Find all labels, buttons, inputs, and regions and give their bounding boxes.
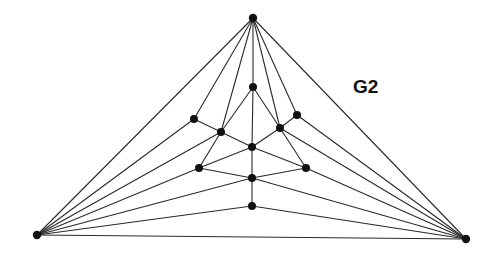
graph-node (249, 14, 257, 22)
graph-edge (37, 206, 252, 235)
graph-edge (306, 168, 466, 239)
graph-node (248, 202, 256, 210)
graph-node (190, 115, 198, 123)
graph-edge (221, 87, 253, 132)
graph-node (302, 164, 310, 172)
graph-edge (221, 18, 253, 132)
graph-edge (253, 87, 280, 128)
graph-edge (252, 128, 280, 147)
graph-edge (199, 147, 252, 168)
graph-edge (37, 178, 252, 235)
graph-node (462, 235, 470, 243)
graph-edge (199, 168, 252, 178)
graph-edge (280, 128, 306, 168)
graph-node (217, 128, 225, 136)
graph-node (249, 83, 257, 91)
graph-edge (37, 18, 253, 235)
graph-edge (297, 115, 466, 239)
graph-edge (252, 168, 306, 178)
graph-diagram (0, 0, 504, 255)
graph-edge (252, 87, 253, 147)
graph-node (293, 111, 301, 119)
graph-edge (37, 168, 199, 235)
graph-nodes (33, 14, 470, 243)
graph-label: G2 (353, 76, 378, 98)
graph-edge (280, 128, 466, 239)
graph-edge (253, 18, 466, 239)
graph-edge (199, 132, 221, 168)
graph-edge (37, 132, 221, 235)
graph-edge (252, 178, 466, 239)
graph-node (248, 174, 256, 182)
graph-node (276, 124, 284, 132)
graph-node (248, 143, 256, 151)
graph-edge (253, 18, 280, 128)
graph-node (33, 231, 41, 239)
graph-edge (252, 206, 466, 239)
graph-edge (37, 119, 194, 235)
graph-edge (253, 18, 297, 115)
graph-edge (194, 119, 221, 132)
graph-edge (37, 235, 466, 239)
graph-edge (252, 147, 306, 168)
graph-edge (221, 132, 252, 147)
graph-node (195, 164, 203, 172)
